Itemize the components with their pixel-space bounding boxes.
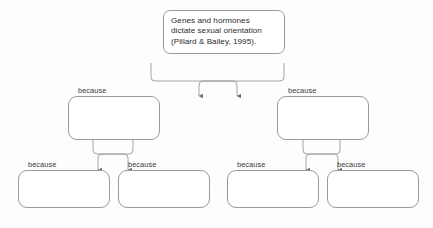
node-mid-left[interactable] [68, 96, 160, 140]
connector-leaf-4-to-mid-right [303, 140, 338, 170]
edge-label-leaf-4: because [337, 161, 365, 169]
connector-mid-left-to-root [199, 63, 284, 96]
connector-leaf-2-to-mid-left [93, 140, 128, 170]
edge-label-mid-right: because [288, 87, 316, 95]
node-leaf-1[interactable] [18, 170, 110, 208]
node-root[interactable]: Genes and hormones dictate sexual orient… [163, 10, 285, 54]
connector-leaf-3-to-mid-right [306, 140, 340, 170]
diagram-canvas: Genes and hormones dictate sexual orient… [0, 0, 433, 228]
node-leaf-4[interactable] [327, 170, 419, 208]
edge-label-leaf-3: because [237, 161, 265, 169]
edge-label-leaf-1: because [28, 161, 56, 169]
node-root-text: Genes and hormones dictate sexual orient… [171, 16, 277, 47]
edge-label-leaf-2: because [128, 161, 156, 169]
node-leaf-3[interactable] [227, 170, 319, 208]
node-mid-right[interactable] [277, 96, 369, 140]
connector-mid-right-to-root [151, 63, 237, 96]
node-leaf-2[interactable] [118, 170, 210, 208]
edge-label-mid-left: because [78, 87, 106, 95]
